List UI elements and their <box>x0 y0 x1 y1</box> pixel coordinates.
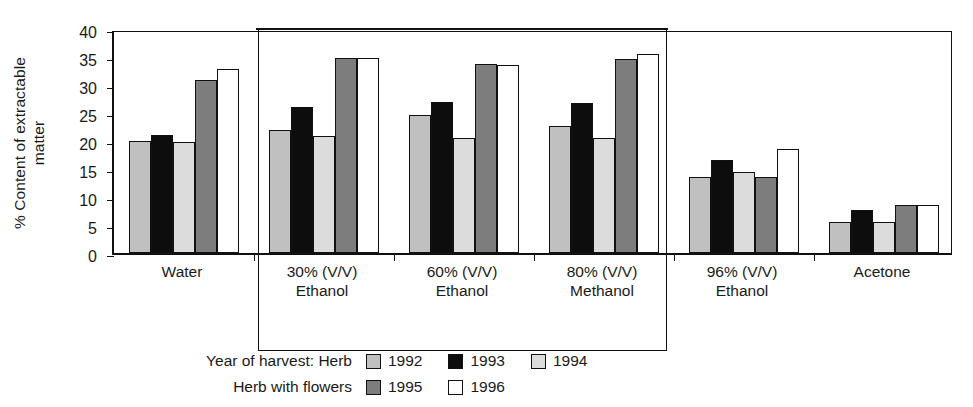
y-axis-tick: 0 <box>107 256 114 257</box>
y-axis-tick: 15 <box>107 172 114 173</box>
category-label-line2: Ethanol <box>672 281 812 300</box>
x-axis-tick <box>674 253 675 261</box>
x-axis-category-label: 96% (V/V)Ethanol <box>672 262 812 300</box>
bar-1992-water <box>129 141 151 253</box>
bar-1995-96-v-v- <box>755 177 777 253</box>
bar-chart-figure: % Content of extractable matter 40353025… <box>0 0 973 407</box>
bar-1994-80-v-v- <box>593 138 615 253</box>
bar-1995-acetone <box>895 205 917 253</box>
bar-1996-30-v-v- <box>357 58 379 253</box>
y-axis-tick-label: 0 <box>88 248 97 266</box>
bar-group <box>114 32 254 253</box>
x-axis-tick <box>814 253 815 261</box>
y-axis-tick: 30 <box>107 88 114 89</box>
bar-1992-60-v-v- <box>409 115 431 253</box>
legend-row-herb-with-flowers: Herb with flowers 19951996 <box>118 374 678 400</box>
legend-row2-title: Herb with flowers <box>118 378 366 396</box>
y-axis-tick-label: 25 <box>79 108 97 126</box>
legend-row-herb: Year of harvest: Herb 199219931994 <box>118 348 678 374</box>
legend-row1-entries: 199219931994 <box>366 352 613 370</box>
x-axis-tick <box>534 253 535 261</box>
bar-group <box>814 32 954 253</box>
y-axis-tick-label: 30 <box>79 80 97 98</box>
y-axis-tick: 25 <box>107 116 114 117</box>
bar-1996-80-v-v- <box>637 54 659 253</box>
legend-swatch-icon <box>366 354 381 369</box>
category-label-line2: Ethanol <box>252 281 392 300</box>
y-axis-tick-label: 10 <box>79 192 97 210</box>
legend-entry-1995: 1995 <box>366 378 422 396</box>
bar-1994-30-v-v- <box>313 136 335 253</box>
y-axis-tick: 35 <box>107 60 114 61</box>
legend-swatch-icon <box>448 354 463 369</box>
legend-entry-1994: 1994 <box>531 352 587 370</box>
legend-swatch-icon <box>366 380 381 395</box>
bar-1996-water <box>217 69 239 253</box>
y-axis-tick: 20 <box>107 144 114 145</box>
legend-entry-1993: 1993 <box>448 352 504 370</box>
legend-label: 1993 <box>470 352 504 370</box>
bar-1996-96-v-v- <box>777 149 799 253</box>
x-axis-category-label: 60% (V/V)Ethanol <box>392 262 532 300</box>
y-axis-title-line1: % Content of extractable <box>11 57 28 229</box>
x-axis-category-label: Water <box>112 262 252 281</box>
legend-label: 1994 <box>553 352 587 370</box>
bar-1993-acetone <box>851 210 873 253</box>
legend-swatch-icon <box>448 380 463 395</box>
category-label-line1: Acetone <box>854 263 911 280</box>
y-axis-tick: 10 <box>107 200 114 201</box>
category-label-line1: 96% (V/V) <box>707 263 778 280</box>
bar-1993-60-v-v- <box>431 102 453 253</box>
bar-1996-acetone <box>917 205 939 253</box>
legend-entry-1996: 1996 <box>448 378 504 396</box>
category-label-line1: 30% (V/V) <box>287 263 358 280</box>
bar-1992-30-v-v- <box>269 130 291 253</box>
y-axis-tick-label: 35 <box>79 52 97 70</box>
legend-entry-1992: 1992 <box>366 352 422 370</box>
bar-1996-60-v-v- <box>497 65 519 253</box>
bar-group <box>394 32 534 253</box>
highlight-rectangle-top-edge <box>256 28 668 30</box>
x-axis-tick <box>254 253 255 261</box>
x-axis-tick <box>394 253 395 261</box>
legend-label: 1992 <box>388 352 422 370</box>
y-axis-tick-label: 20 <box>79 136 97 154</box>
y-axis-tick-label: 15 <box>79 164 97 182</box>
x-axis-category-label: Acetone <box>812 262 952 281</box>
legend-label: 1996 <box>470 378 504 396</box>
y-axis-title-line2: matter <box>29 57 48 229</box>
legend-swatch-icon <box>531 354 546 369</box>
y-axis-tick-label: 5 <box>88 220 97 238</box>
y-axis-title: % Content of extractable matter <box>0 18 58 268</box>
category-label-line2: Methanol <box>532 281 672 300</box>
bar-1992-acetone <box>829 222 851 253</box>
legend-row2-entries: 19951996 <box>366 378 531 396</box>
y-axis-tick: 5 <box>107 228 114 229</box>
bar-1995-water <box>195 80 217 253</box>
bar-1992-96-v-v- <box>689 177 711 253</box>
bar-1993-96-v-v- <box>711 160 733 253</box>
bar-1993-water <box>151 135 173 253</box>
y-axis-tick: 40 <box>107 32 114 33</box>
legend-label: 1995 <box>388 378 422 396</box>
bar-1994-water <box>173 142 195 253</box>
y-axis-tick-label: 40 <box>79 24 97 42</box>
plot-area: 4035302520151050 <box>112 31 952 255</box>
bar-1993-80-v-v- <box>571 103 593 253</box>
bar-1995-30-v-v- <box>335 58 357 253</box>
bar-1993-30-v-v- <box>291 107 313 253</box>
bar-1992-80-v-v- <box>549 126 571 253</box>
bar-1995-80-v-v- <box>615 59 637 253</box>
x-axis-category-label: 30% (V/V)Ethanol <box>252 262 392 300</box>
category-label-line2: Ethanol <box>392 281 532 300</box>
chart-legend: Year of harvest: Herb 199219931994 Herb … <box>118 348 678 400</box>
bar-group <box>534 32 674 253</box>
legend-row1-title: Year of harvest: Herb <box>118 352 366 370</box>
bar-1994-96-v-v- <box>733 172 755 253</box>
bar-1995-60-v-v- <box>475 64 497 253</box>
category-label-line1: Water <box>162 263 203 280</box>
bar-1994-acetone <box>873 222 895 253</box>
category-label-line1: 80% (V/V) <box>567 263 638 280</box>
bar-1994-60-v-v- <box>453 138 475 253</box>
category-label-line1: 60% (V/V) <box>427 263 498 280</box>
